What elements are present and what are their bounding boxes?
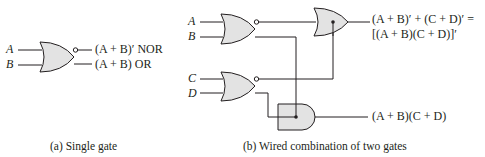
wired-or-symbol [314,8,348,36]
nor-or-gate-ab [221,14,255,44]
input-label-b: B [6,58,13,71]
wired-or-dot [331,20,335,24]
caption-b: (b) Wired combination of two gates [243,140,407,152]
output-label-bottom: (A + B)(C + D) [372,110,446,123]
input-label-c: C [188,72,196,85]
inversion-bubble-ab [254,20,258,24]
output-label-or: (A + B) OR [95,58,151,71]
input-label-a: A [188,15,195,28]
inversion-bubble-cd [254,77,258,81]
nor-or-gate-a [40,42,74,72]
inversion-bubble-a [73,48,77,52]
wire-b-or2-out [255,93,280,117]
input-label-d: D [188,87,197,100]
output-label-nor: (A + B)′ NOR [95,43,163,56]
input-label-a: A [6,43,13,56]
input-label-b: B [188,30,195,43]
nor-or-gate-cd [221,72,255,101]
wired-and-dot [294,115,298,119]
output-label-top-line1: (A + B)′ + (C + D)′ = [372,13,474,26]
output-label-top-line2: [(A + B)(C + D)]′ [372,28,457,41]
caption-a: (a) Single gate [50,140,117,152]
